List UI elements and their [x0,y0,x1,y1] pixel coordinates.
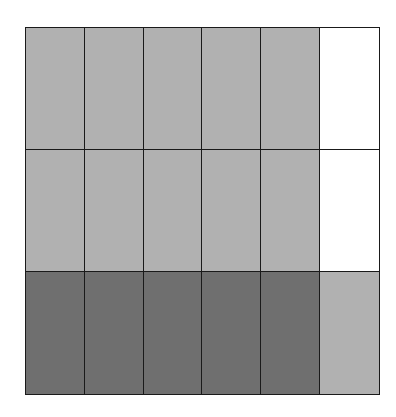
grid-cell-r3-c3 [144,272,203,394]
grid-cell-r2-c4 [202,150,261,272]
grid-cell-r2-c1 [26,150,85,272]
grid-cell-r1-c6 [320,28,379,150]
grid-cell-r2-c5 [261,150,320,272]
grid-cell-r3-c1 [26,272,85,394]
grid-cell-r3-c2 [85,272,144,394]
grid-cell-r2-c3 [144,150,203,272]
grid-cell-r3-c6 [320,272,379,394]
grid-cell-r1-c3 [144,28,203,150]
grid-cell-r3-c5 [261,272,320,394]
grid-cell-r2-c2 [85,150,144,272]
grid-cell-r1-c5 [261,28,320,150]
grid-cell-r2-c6 [320,150,379,272]
grid-cell-r1-c1 [26,28,85,150]
grid-cell-r1-c4 [202,28,261,150]
fraction-grid [25,27,380,395]
grid-cell-r3-c4 [202,272,261,394]
grid-cell-r1-c2 [85,28,144,150]
